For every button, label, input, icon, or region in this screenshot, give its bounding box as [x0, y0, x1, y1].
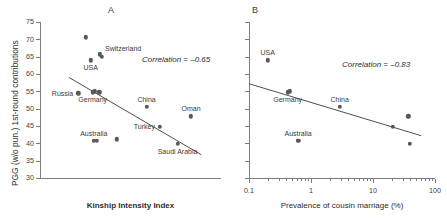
point-label-australia: Australia [80, 130, 107, 137]
data-point [189, 114, 193, 118]
panel-b-x-minor-tick [330, 179, 331, 181]
panel-b-x-major-tick [373, 179, 374, 183]
panel-a-y-axis-line [40, 22, 41, 179]
panel-b-x-minor-tick [341, 179, 342, 181]
point-label-germany: Germany [273, 96, 302, 103]
panel-b-y-axis-line [249, 22, 250, 179]
panel-a-y-tick-label: 75 [16, 17, 34, 26]
data-point [406, 114, 410, 118]
data-point [100, 54, 104, 58]
data-point [144, 104, 148, 108]
panel-b-x-tick-label: 10 [359, 186, 387, 195]
panel-b-x-major-tick [311, 179, 312, 183]
panel-b-correlation-annotation: Correlation = –0.83 [342, 60, 410, 69]
panel-a-y-tick-label: 35 [16, 156, 34, 165]
panel-a: A PGG (w/o pun.) 1st-round contributions… [0, 0, 224, 221]
panel-a-y-tick-label: 70 [16, 35, 34, 44]
panel-a-trendline [69, 77, 201, 154]
panel-b-x-tick-label: 1 [297, 186, 325, 195]
panel-b-x-minor-tick [292, 179, 293, 181]
panel-b-x-major-tick [249, 179, 250, 183]
panel-b-x-minor-tick [403, 179, 404, 181]
point-label-usa: USA [83, 64, 97, 71]
panel-b-x-minor-tick [392, 179, 393, 181]
point-label-russia: Russia [52, 90, 73, 97]
data-point [88, 58, 92, 62]
panel-b-x-minor-tick [416, 179, 417, 181]
panel-b-x-minor-tick [308, 179, 309, 181]
panel-b-x-minor-tick [301, 179, 302, 181]
panel-a-y-tick-label: 40 [16, 139, 34, 148]
data-point [76, 91, 80, 95]
panel-b-x-minor-tick [286, 179, 287, 181]
data-point [337, 104, 341, 108]
panel-a-correlation-annotation: Correlation = –0.65 [142, 55, 210, 64]
data-point [83, 35, 87, 39]
panel-a-y-tick-label: 30 [16, 173, 34, 182]
point-label-turkey: Turkey [134, 123, 155, 130]
point-label-saudi-arabia: Saudi Arabia [158, 148, 198, 155]
data-point [296, 139, 300, 143]
panel-b-x-minor-tick [370, 179, 371, 181]
data-point [265, 58, 269, 62]
data-point [95, 139, 99, 143]
point-label-china: China [137, 96, 155, 103]
panel-b-x-minor-tick [410, 179, 411, 181]
panel-b-x-axis-line [249, 178, 435, 179]
data-point [407, 141, 411, 145]
panel-a-y-tick-label: 55 [16, 87, 34, 96]
panel-a-y-tick-label: 45 [16, 121, 34, 130]
panel-b-x-axis-title: Prevalence of cousin marriage (%) [236, 201, 447, 210]
panel-a-letter: A [108, 5, 114, 15]
point-label-germany: Germany [78, 96, 107, 103]
panel-b-x-minor-tick [421, 179, 422, 181]
figure-container: A PGG (w/o pun.) 1st-round contributions… [0, 0, 447, 221]
panel-a-y-tick-label: 50 [16, 104, 34, 113]
panel-b-x-minor-tick [425, 179, 426, 181]
panel-a-x-axis-title: Kinship Intensity Index [40, 201, 221, 210]
data-point [97, 90, 101, 94]
panel-a-y-tick-label: 65 [16, 52, 34, 61]
panel-b-x-minor-tick [367, 179, 368, 181]
panel-b-x-minor-tick [268, 179, 269, 181]
panel-b-x-major-tick [435, 179, 436, 183]
panel-b-trendline [249, 84, 421, 136]
data-point [175, 141, 179, 145]
panel-b-x-minor-tick [279, 179, 280, 181]
data-point [114, 137, 118, 141]
panel-b: B 0.1110100 USAGermanyChinaAustralia Cor… [224, 0, 447, 221]
data-point [391, 124, 395, 128]
point-label-usa: USA [260, 49, 274, 56]
data-point [288, 89, 292, 93]
point-label-china: China [331, 96, 349, 103]
panel-b-x-minor-tick [429, 179, 430, 181]
panel-b-x-tick-label: 100 [421, 186, 447, 195]
point-label-switzerland: Switzerland [105, 45, 141, 52]
panel-b-x-minor-tick [305, 179, 306, 181]
panel-b-x-minor-tick [354, 179, 355, 181]
panel-b-x-minor-tick [359, 179, 360, 181]
data-point [158, 124, 162, 128]
panel-b-x-minor-tick [348, 179, 349, 181]
panel-b-x-minor-tick [297, 179, 298, 181]
point-label-australia: Australia [285, 130, 312, 137]
point-label-oman: Oman [181, 105, 200, 112]
panel-b-x-minor-tick [432, 179, 433, 181]
panel-a-y-tick-label: 60 [16, 69, 34, 78]
panel-b-x-minor-tick [363, 179, 364, 181]
panel-a-x-axis-line [40, 178, 221, 179]
panel-b-x-tick-label: 0.1 [235, 186, 263, 195]
panel-b-letter: B [252, 5, 258, 15]
